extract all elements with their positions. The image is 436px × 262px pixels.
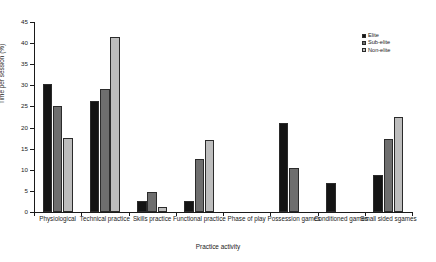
bar-group xyxy=(232,22,262,212)
y-tick-mark xyxy=(30,128,34,129)
legend-item: Elite xyxy=(362,32,390,39)
bar xyxy=(147,192,157,212)
y-axis-title: Time per session (%) xyxy=(0,44,5,104)
legend-item: Non-elite xyxy=(362,47,390,54)
y-tick-label: 30 xyxy=(21,80,28,89)
bar xyxy=(373,175,383,212)
bar-group xyxy=(184,22,214,212)
bar-group xyxy=(43,22,73,212)
bar-group xyxy=(279,22,309,212)
plot-area xyxy=(34,22,412,212)
figure-bar-chart: 051015202530354045 PhysiologicalTechnica… xyxy=(0,0,436,262)
bar-group xyxy=(90,22,120,212)
legend: EliteSub-eliteNon-elite xyxy=(362,32,390,54)
bar xyxy=(184,201,194,212)
y-tick-label: 40 xyxy=(21,38,28,47)
y-tick-label: 35 xyxy=(21,59,28,68)
bar xyxy=(279,123,289,212)
legend-label: Sub-elite xyxy=(368,39,390,46)
bar xyxy=(110,37,120,212)
legend-label: Elite xyxy=(368,32,379,39)
legend-label: Non-elite xyxy=(368,47,390,54)
bar xyxy=(394,117,404,212)
y-tick-mark xyxy=(30,85,34,86)
bar xyxy=(43,84,53,212)
bar xyxy=(289,168,299,212)
bar xyxy=(53,106,63,212)
y-tick-mark xyxy=(30,64,34,65)
y-tick-mark xyxy=(30,170,34,171)
y-tick-mark xyxy=(30,43,34,44)
y-tick-label: 25 xyxy=(21,101,28,110)
y-axis-line xyxy=(34,22,35,213)
bar xyxy=(195,159,205,212)
x-axis-title: Practice activity xyxy=(0,243,436,250)
legend-item: Sub-elite xyxy=(362,39,390,46)
bar xyxy=(205,140,215,212)
bar-group xyxy=(326,22,356,212)
y-tick-label: 5 xyxy=(25,186,28,195)
legend-swatch-icon xyxy=(362,41,366,45)
bar xyxy=(63,138,73,212)
bar xyxy=(137,201,147,212)
y-tick-mark xyxy=(30,191,34,192)
y-tick-label: 45 xyxy=(21,17,28,26)
y-tick-label: 20 xyxy=(21,123,28,132)
bar xyxy=(326,183,336,212)
bar xyxy=(384,139,394,212)
bar xyxy=(100,89,110,212)
bar xyxy=(90,101,100,212)
legend-swatch-icon xyxy=(362,34,366,38)
y-tick-label: 10 xyxy=(21,165,28,174)
y-tick-mark xyxy=(30,149,34,150)
y-tick-label: 15 xyxy=(21,144,28,153)
y-tick-mark xyxy=(30,106,34,107)
x-category-label: Small sided sgames xyxy=(359,215,418,223)
bar-group xyxy=(137,22,167,212)
legend-swatch-icon xyxy=(362,48,366,52)
y-tick-mark xyxy=(30,22,34,23)
